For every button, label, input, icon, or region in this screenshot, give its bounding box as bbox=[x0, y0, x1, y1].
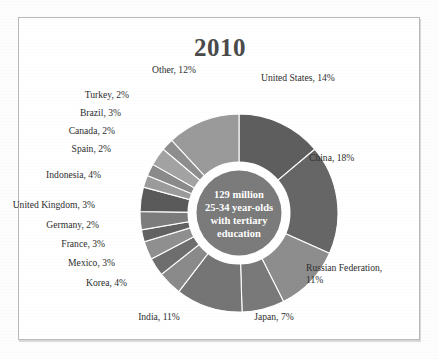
slice-label-other: Other, 12% bbox=[119, 64, 229, 76]
chart-frame: 2010 129 million 25-34 year-olds with te… bbox=[18, 17, 420, 340]
slice-label-china: China, 18% bbox=[309, 152, 354, 164]
slice-label-brazil: Brazil, 3% bbox=[1, 107, 121, 119]
chart-page: 2010 129 million 25-34 year-olds with te… bbox=[0, 0, 438, 359]
slice-label-spain: Spain, 2% bbox=[0, 143, 111, 155]
slice-label-indonesia: Indonesia, 4% bbox=[0, 169, 101, 181]
slice-label-mexico: Mexico, 3% bbox=[0, 257, 115, 269]
slice-label-turkey: Turkey, 2% bbox=[9, 89, 129, 101]
slice-label-japan: Japan, 7% bbox=[234, 311, 314, 323]
slice-label-germany: Germany, 2% bbox=[0, 219, 99, 231]
slice-label-canada: Canada, 2% bbox=[0, 125, 115, 137]
slice-label-united-kingdom: United Kingdom, 3% bbox=[0, 199, 95, 211]
slice-label-korea: Korea, 4% bbox=[7, 277, 127, 289]
slice-label-united-states: United States, 14% bbox=[261, 72, 335, 84]
slice-label-france: France, 3% bbox=[0, 238, 105, 250]
slice-label-russian-federation: Russian Federation, 11% bbox=[306, 262, 398, 285]
donut-hole bbox=[197, 171, 282, 256]
slice-label-india: India, 11% bbox=[119, 311, 199, 323]
chart-title: 2010 bbox=[19, 34, 421, 62]
